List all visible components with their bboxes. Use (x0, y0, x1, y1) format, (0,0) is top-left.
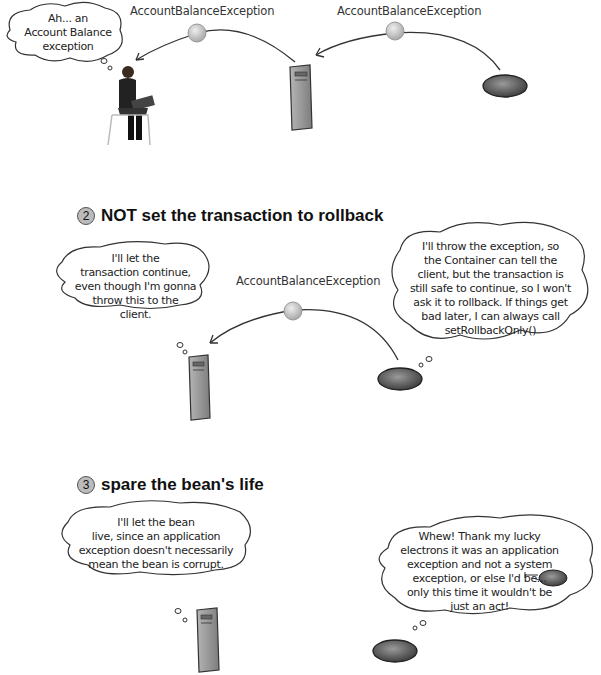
section-3-heading: 3 spare the bean's life (77, 475, 264, 495)
exception-label-2: AccountBalanceException (236, 274, 380, 288)
step-number-3: 3 (77, 476, 95, 494)
section-2-title: NOT set the transaction to rollback (101, 206, 383, 226)
client-thought-text: Ah... an Account Balance exception (18, 12, 118, 54)
client-person-figure (108, 66, 155, 145)
arc-server-to-client (136, 30, 295, 62)
bean-2 (378, 368, 422, 390)
container-thought-text-3: I'll let the bean live, since an applica… (72, 516, 240, 572)
arc-bean-to-server (316, 32, 500, 70)
arc-bean-to-server-2 (210, 310, 398, 360)
container-server-1 (290, 65, 312, 130)
container-server-3 (197, 608, 219, 672)
section-2-heading: 2 NOT set the transaction to rollback (77, 206, 383, 226)
bean-1 (483, 75, 527, 97)
exception-label-1a: AccountBalanceException (130, 4, 274, 18)
container-server-2 (189, 355, 210, 420)
exception-ball-1a (188, 24, 206, 42)
bean-thought-text-3: Whew! Thank my lucky electrons it was an… (392, 530, 567, 614)
bean-thought-text-2: I'll throw the exception, so the Contain… (398, 240, 583, 338)
exception-ball-1b (386, 22, 404, 40)
step-number-2: 2 (77, 207, 95, 225)
bean-3 (373, 640, 417, 662)
container-thought-text-2: I'll let the transaction continue, even … (68, 252, 203, 322)
section-3-title: spare the bean's life (101, 475, 264, 495)
exception-ball-2 (284, 302, 302, 320)
exception-label-1b: AccountBalanceException (337, 4, 481, 18)
